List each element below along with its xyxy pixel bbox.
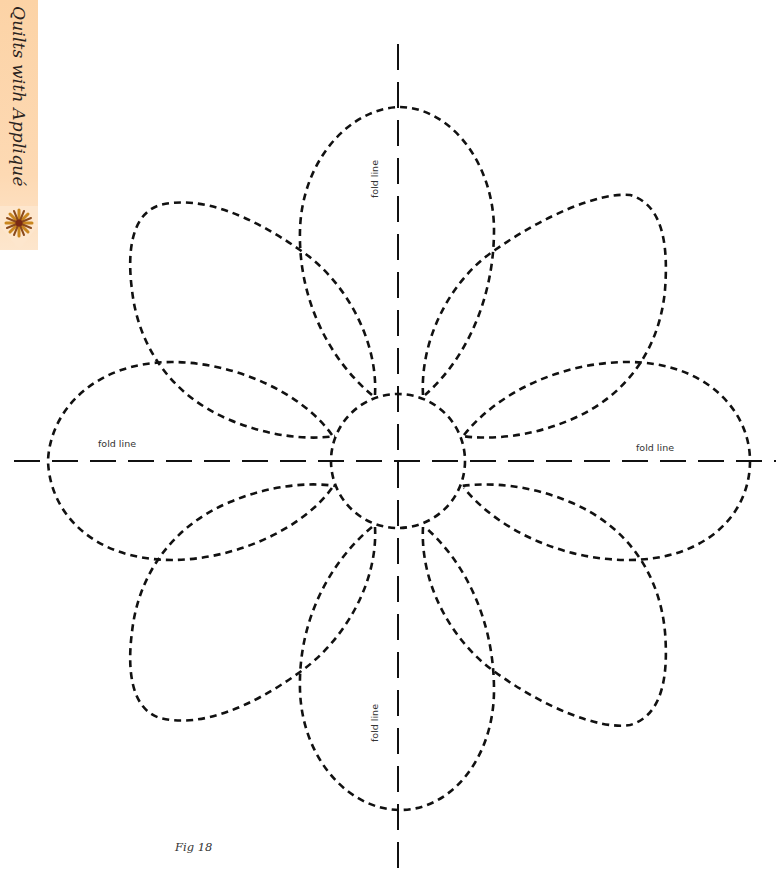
petal-top-right [423,195,666,438]
figure-caption: Fig 18 [175,840,212,854]
fold-line-label-right: fold line [636,442,674,453]
fold-line-label-bottom: fold line [369,704,380,742]
petal-bottom [300,527,494,810]
petal-top [300,107,494,395]
petal-bottom-left [130,484,375,720]
petal-top-left [130,202,375,437]
fold-line-label-left: fold line [98,438,136,449]
fold-line-label-top: fold line [369,160,380,198]
petal-bottom-right [423,484,666,725]
fold-lines [14,44,776,872]
flower-pattern [0,0,780,872]
